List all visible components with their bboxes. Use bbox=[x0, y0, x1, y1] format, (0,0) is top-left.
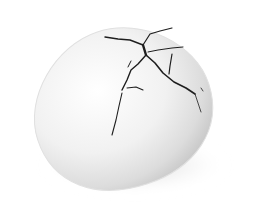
cracked-egg-image bbox=[0, 0, 253, 214]
egg-illustration bbox=[0, 0, 253, 214]
